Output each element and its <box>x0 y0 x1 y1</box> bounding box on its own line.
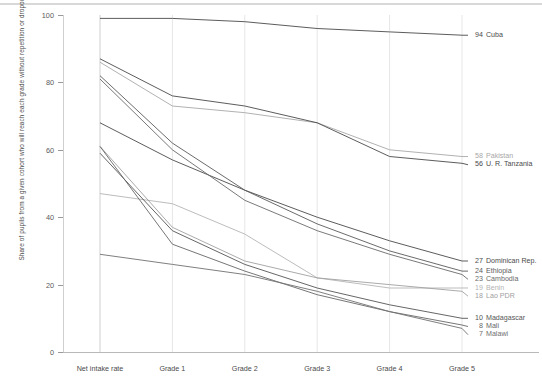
series-line-pakistan <box>100 62 462 156</box>
y-tick-20: 20 <box>28 281 54 290</box>
vertical-gridlines <box>100 15 462 352</box>
leader-tick <box>462 274 468 279</box>
x-tick-grade-2: Grade 2 <box>205 364 285 373</box>
endpoint-value: 23 <box>470 275 483 283</box>
endpoint-country-name: Malawi <box>486 330 508 338</box>
y-tick-mark-40 <box>58 217 63 218</box>
x-tick-net-intake-rate: Net intake rate <box>60 364 140 373</box>
endpoint-label-benin: 19Benin <box>470 284 504 292</box>
endpoint-value: 19 <box>470 284 483 292</box>
x-tick-grade-5: Grade 5 <box>422 364 502 373</box>
y-tick-mark-0 <box>58 352 63 353</box>
endpoint-label-lao-pdr: 18Lao PDR <box>470 292 515 300</box>
endpoint-label-cuba: 94Cuba <box>470 31 503 39</box>
endpoint-label-madagascar: 10Madagascar <box>470 314 525 322</box>
endpoint-country-name: Ethiopia <box>486 267 512 275</box>
y-tick-60: 60 <box>28 146 54 155</box>
endpoint-label-pakistan: 58Pakistan <box>470 152 513 160</box>
y-tick-40: 40 <box>28 213 54 222</box>
leader-tick <box>462 328 468 334</box>
endpoint-value: 10 <box>470 314 483 322</box>
y-tick-mark-60 <box>58 150 63 151</box>
y-tick-80: 80 <box>28 78 54 87</box>
endpoint-value: 56 <box>470 160 483 168</box>
y-tick-0: 0 <box>28 348 54 357</box>
data-series-group <box>100 18 468 334</box>
leader-tick <box>462 325 468 326</box>
series-line-ethiopia <box>100 76 462 271</box>
endpoint-value: 58 <box>470 152 483 160</box>
series-line-madagascar <box>100 153 462 318</box>
series-line-malawi <box>100 254 462 328</box>
x-tick-grade-1: Grade 1 <box>132 364 212 373</box>
endpoint-value: 18 <box>470 292 483 300</box>
series-line-u-r-tanzania <box>100 59 462 164</box>
endpoint-value: 7 <box>470 330 483 338</box>
survival-rate-line-chart: Share of pupils from a given cohort who … <box>0 0 542 386</box>
endpoint-label-dominican-rep-: 27Dominican Rep. <box>470 257 536 265</box>
endpoint-country-name: Madagascar <box>486 314 525 322</box>
leader-tick <box>462 291 468 296</box>
endpoint-value: 8 <box>470 322 483 330</box>
series-line-mali <box>100 146 462 325</box>
y-tick-mark-80 <box>58 82 63 83</box>
y-tick-mark-20 <box>58 285 63 286</box>
endpoint-label-mali: 8Mali <box>470 322 499 330</box>
endpoint-label-ethiopia: 24Ethiopia <box>470 267 512 275</box>
endpoint-value: 94 <box>470 31 483 39</box>
leader-tick <box>462 163 468 164</box>
endpoint-value: 24 <box>470 267 483 275</box>
series-line-benin <box>100 194 462 288</box>
endpoint-label-cambodia: 23Cambodia <box>470 275 518 283</box>
series-line-lao-pdr <box>100 146 462 291</box>
endpoint-value: 27 <box>470 257 483 265</box>
series-line-cuba <box>100 18 462 35</box>
series-lines-layer <box>0 0 542 386</box>
endpoint-label-u-r-tanzania: 56U. R. Tanzania <box>470 160 532 168</box>
endpoint-country-name: Lao PDR <box>486 292 515 300</box>
x-tick-grade-4: Grade 4 <box>350 364 430 373</box>
y-tick-mark-100 <box>58 15 63 16</box>
endpoint-country-name: Benin <box>486 284 504 292</box>
x-tick-grade-3: Grade 3 <box>277 364 357 373</box>
endpoint-country-name: Cambodia <box>486 275 518 283</box>
series-line-cambodia <box>100 79 462 275</box>
y-tick-100: 100 <box>28 11 54 20</box>
series-line-dominican-rep- <box>100 123 462 261</box>
endpoint-country-name: Cuba <box>486 31 503 39</box>
endpoint-country-name: U. R. Tanzania <box>486 160 532 168</box>
endpoint-country-name: Dominican Rep. <box>486 257 536 265</box>
endpoint-country-name: Pakistan <box>486 152 513 160</box>
endpoint-country-name: Mali <box>486 322 499 330</box>
endpoint-label-malawi: 7Malawi <box>470 330 508 338</box>
